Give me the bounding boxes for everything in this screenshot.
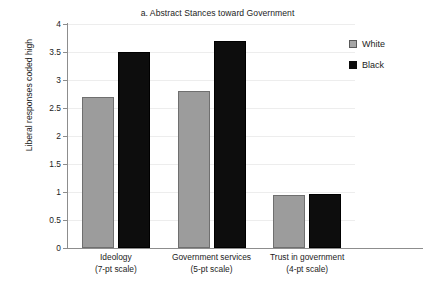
category-name: Ideology bbox=[100, 252, 132, 262]
bar-white-1 bbox=[82, 97, 114, 248]
x-axis-line bbox=[67, 248, 423, 249]
category-name: Trust in government bbox=[270, 252, 344, 262]
black-square-icon bbox=[349, 61, 357, 69]
legend-item-label: White bbox=[362, 39, 385, 49]
x-axis-category-label: Trust in government(4-pt scale) bbox=[237, 252, 377, 275]
gray-square-icon bbox=[349, 40, 357, 48]
bar-white-2 bbox=[178, 91, 210, 248]
chart-title: a. Abstract Stances toward Government bbox=[0, 8, 435, 18]
bar-white-3 bbox=[273, 195, 305, 248]
y-axis-title: Liberal responses coded high bbox=[24, 0, 34, 190]
chart-legend: WhiteBlack bbox=[349, 36, 433, 78]
category-scale: (4-pt scale) bbox=[237, 264, 377, 276]
legend-item-black[interactable]: Black bbox=[349, 57, 433, 73]
bar-black-3 bbox=[309, 194, 341, 248]
gridline bbox=[68, 24, 355, 25]
gridline bbox=[68, 80, 355, 81]
bar-black-2 bbox=[214, 41, 246, 248]
chart-figure: a. Abstract Stances toward Government 00… bbox=[0, 0, 435, 296]
legend-item-white[interactable]: White bbox=[349, 36, 433, 52]
legend-item-label: Black bbox=[362, 60, 384, 70]
gridline bbox=[68, 52, 355, 53]
y-tick-label: 0.5 bbox=[3, 215, 61, 225]
bar-black-1 bbox=[118, 52, 150, 248]
plot-area bbox=[68, 24, 355, 248]
